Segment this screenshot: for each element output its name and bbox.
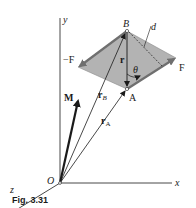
r-a-label: rA <box>101 115 111 128</box>
theta-label: θ <box>133 64 138 75</box>
figure-caption: Fig. 3.31 <box>12 195 48 205</box>
point-b-marker <box>125 29 128 32</box>
origin-marker <box>59 182 62 185</box>
neg-force-label: −F <box>63 54 75 65</box>
y-axis-label: y <box>62 14 68 25</box>
force-label: F <box>179 62 185 73</box>
z-axis-label: z <box>9 184 14 195</box>
point-a-marker <box>125 87 128 90</box>
couple-moment-diagram: y x z O B A −F F d θ r M rB rA Fig. 3.31 <box>0 0 196 208</box>
point-a-label: A <box>129 92 137 103</box>
point-b-label: B <box>123 18 129 29</box>
r-label: r <box>120 54 125 65</box>
origin-label: O <box>47 175 54 186</box>
r-b-label: rB <box>98 89 107 102</box>
moment-m-label: M <box>64 92 74 103</box>
d-label: d <box>151 21 157 32</box>
x-axis-label: x <box>174 177 180 188</box>
